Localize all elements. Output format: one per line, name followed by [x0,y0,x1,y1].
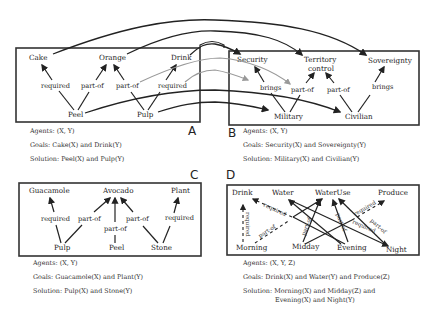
panel-d: Drink Water WaterUse Produce Morning Mid… [226,168,419,304]
node-morning: Morning [236,243,268,252]
agents-text: Agents: (X, Y, Z) [242,259,295,267]
agents-text: Agents: (X, Y) [29,127,74,135]
mapping-drink-security [190,44,240,55]
node-pulp: Pulp [54,243,71,252]
panel-c: Guacamole Avocado Plant Pulp Peel Stone … [19,168,201,295]
node-plant: Plant [171,186,190,195]
solution-text-line1: Solution: Morning(X) and Midday(Z) and [243,287,375,295]
edge-label-required: required [353,199,378,218]
node-guacamole: Guacamole [29,186,70,195]
edge-label-part-of: part-of [81,82,104,90]
node-evening: Evening [337,243,367,252]
node-produce: Produce [378,188,408,197]
edge-military-territory-upper [306,73,314,83]
edge-label-part-of: part-of [327,86,350,94]
edge-peel-orange-lower [78,92,89,110]
edge-peel-cake-upper [42,65,52,80]
edge-stone-avocado-lower [143,226,158,243]
goals-text: Goals: Drink(X) and Water(Y) and Produce… [243,273,390,281]
node-sovereignty: Sovereignty [368,56,413,65]
edge-label-part-of: part-of [126,215,149,223]
edge-label-required: required [244,212,251,237]
edge-label-required: required [41,82,71,90]
edge-peel-cake-lower [59,91,74,110]
panel-letter-a: A [188,124,197,138]
edge-stone-plant-upper [174,198,178,213]
edge-pulp-orange-lower [131,92,144,110]
node-drink: Drink [171,53,192,62]
solution-text: Solution: Pulp(X) and Stone(Y) [33,287,132,295]
edge-pulp-guacamole-lower [56,225,61,243]
node-water: Water [272,188,294,197]
analogy-diagram: Cake Orange Drink Peel Pulp required par… [0,0,425,312]
edge-stone-avocado-upper [121,198,133,212]
agents-text: Agents: (X, Y) [32,259,77,267]
edge-stone-plant-lower [163,226,170,243]
edge-pulp-avocado-lower [65,225,82,243]
edge-label-required: required [165,214,195,222]
mapping-required-brings [185,70,248,82]
edge-label-required: required [158,82,188,90]
node-peel: Peel [109,243,125,252]
goals-text: Goals: Security(X) and Sovereignty(Y) [243,141,366,149]
mapping-pulp-military [158,102,268,112]
node-cake: Cake [29,53,47,62]
node-territory-control-line2: control [308,64,335,73]
node-civilian: Civilian [345,112,373,121]
edge-label-required: required [41,215,71,223]
edge-military-security-upper [255,67,264,82]
panel-letter-c: C [190,168,198,182]
edge-civilian-territory-lower [340,95,352,112]
edge-label-brings: brings [372,83,394,91]
node-stone: Stone [151,243,172,252]
edge-pulp-guacamole-upper [50,198,54,212]
solution-text: Solution: Military(X) and Civilian(Y) [243,155,359,163]
edge-pulp-orange-upper [114,65,124,80]
goals-text: Goals: Cake(X) and Drink(Y) [30,141,122,149]
goals-text: Goals: Guacamole(X) and Plant(Y) [33,273,143,281]
node-night: Night [386,245,407,254]
node-territory-control-line1: Territory [304,55,337,64]
mapping-cake-sovereignty [53,20,366,55]
edge-pulp-avocado-upper [94,198,110,212]
node-avocado: Avocado [102,186,134,195]
edge-civilian-territory-upper [326,73,334,83]
edge-label-brings: brings [260,84,282,92]
agents-text: Agents: (X, Y) [242,127,287,135]
node-pulp: Pulp [137,110,154,119]
node-security: Security [237,55,268,64]
node-wateruse: WaterUse [315,188,351,197]
edge-label-part-of: part-of [257,223,278,240]
edge-peel-orange-upper [96,65,106,80]
edge-label-part-of: part-of [78,215,101,223]
node-peel: Peel [68,110,84,119]
solution-text-line2: Evening(X) and Night(Y) [275,296,355,304]
node-military: Military [274,112,304,121]
edge-civilian-sovereignty-lower [358,95,370,112]
solution-text: Solution: Peel(X) and Pulp(Y) [30,155,124,163]
edge-label-required: required [262,201,288,218]
edge-label-part-of: part-of [116,82,139,90]
node-drink: Drink [232,188,253,197]
edge-label-part-of: part-of [104,225,127,233]
panel-letter-d: D [226,168,235,182]
edge-civilian-sovereignty-upper [375,67,384,82]
edge-label-part-of: part-of [291,86,314,94]
node-orange: Orange [99,53,126,62]
panel-letter-b: B [228,126,236,140]
